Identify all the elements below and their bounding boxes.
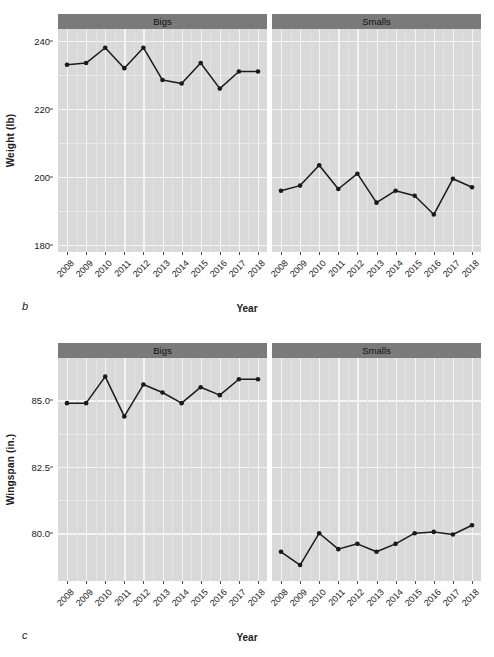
data-point xyxy=(256,377,261,382)
x-tick-mark xyxy=(182,252,183,255)
data-point xyxy=(160,390,165,395)
data-point xyxy=(122,414,127,419)
facet-panel-bigs: Bigs xyxy=(58,343,267,581)
data-point xyxy=(141,45,146,50)
series-line xyxy=(67,48,258,89)
data-point xyxy=(65,401,70,406)
data-point xyxy=(218,393,223,398)
data-point xyxy=(256,69,261,74)
x-tick-mark xyxy=(281,581,282,584)
data-point xyxy=(237,377,242,382)
x-tick-mark xyxy=(258,252,259,255)
x-tick-mark xyxy=(472,581,473,584)
x-tick-mark xyxy=(396,581,397,584)
x-tick-mark xyxy=(143,252,144,255)
series-line xyxy=(281,165,472,214)
facet-strip-text: Bigs xyxy=(153,345,171,356)
y-tick-label: 80.0 xyxy=(10,528,50,539)
data-point xyxy=(336,187,341,192)
y-axis-ticks: 85.082.580.0 xyxy=(0,329,50,657)
facet-strip-text: Smalls xyxy=(362,16,391,27)
data-point xyxy=(65,62,70,67)
x-tick-mark xyxy=(182,581,183,584)
data-point xyxy=(298,183,303,188)
data-point xyxy=(451,532,456,537)
x-tick-mark xyxy=(163,581,164,584)
y-tick-label: 220 xyxy=(10,104,50,115)
data-point xyxy=(103,45,108,50)
y-tick-mark xyxy=(50,245,53,246)
facet-strip-label: Smalls xyxy=(272,14,481,29)
x-tick-mark xyxy=(163,252,164,255)
chart-plot-area: Wingspan (in.)85.082.580.0Bigs2008200920… xyxy=(0,329,494,657)
figure-panel-c: Wingspan (in.)85.082.580.0Bigs2008200920… xyxy=(0,329,494,657)
data-point xyxy=(470,185,475,190)
x-tick-mark xyxy=(67,581,68,584)
facet-strip-label: Bigs xyxy=(58,343,267,358)
facet-plot-region xyxy=(58,358,267,581)
y-tick-mark xyxy=(50,40,53,41)
x-axis-title: Year xyxy=(0,632,494,643)
series-bigs xyxy=(58,29,267,252)
panel-letter: b xyxy=(22,300,28,312)
x-tick-mark xyxy=(319,252,320,255)
x-tick-mark xyxy=(67,252,68,255)
series-smalls xyxy=(272,358,481,581)
data-point xyxy=(393,542,398,547)
y-tick-mark xyxy=(50,466,53,467)
facet-panel-smalls: Smalls xyxy=(272,343,481,581)
data-point xyxy=(218,86,223,91)
x-tick-mark xyxy=(434,581,435,584)
data-point xyxy=(298,563,303,568)
data-point xyxy=(393,188,398,193)
x-tick-mark xyxy=(338,581,339,584)
data-point xyxy=(84,61,89,66)
data-point xyxy=(374,200,379,205)
y-tick-label: 200 xyxy=(10,172,50,183)
x-tick-mark xyxy=(377,581,378,584)
x-tick-mark xyxy=(453,252,454,255)
data-point xyxy=(179,81,184,86)
data-point xyxy=(84,401,89,406)
x-tick-mark xyxy=(201,581,202,584)
data-point xyxy=(198,61,203,66)
x-tick-mark xyxy=(124,252,125,255)
data-point xyxy=(279,550,284,555)
x-tick-mark xyxy=(319,581,320,584)
data-point xyxy=(412,194,417,199)
data-point xyxy=(279,188,284,193)
facet-plot-region xyxy=(58,29,267,252)
x-tick-mark xyxy=(220,581,221,584)
x-tick-mark xyxy=(281,252,282,255)
x-tick-mark xyxy=(300,581,301,584)
x-axis-title: Year xyxy=(0,303,494,314)
y-tick-label: 240 xyxy=(10,35,50,46)
series-bigs xyxy=(58,358,267,581)
figure-panel-b: Weight (lb)240220200180Bigs2008200920102… xyxy=(0,0,494,328)
x-tick-mark xyxy=(357,581,358,584)
data-point xyxy=(470,523,475,528)
x-tick-mark xyxy=(143,581,144,584)
x-tick-mark xyxy=(124,581,125,584)
y-tick-mark xyxy=(50,400,53,401)
facet-panel-smalls: Smalls xyxy=(272,14,481,252)
panel-letter: c xyxy=(22,629,28,641)
x-tick-mark xyxy=(396,252,397,255)
data-point xyxy=(374,550,379,555)
y-tick-label: 180 xyxy=(10,240,50,251)
x-tick-mark xyxy=(357,252,358,255)
y-axis-ticks: 240220200180 xyxy=(0,0,50,328)
data-point xyxy=(103,374,108,379)
data-point xyxy=(355,171,360,176)
x-tick-mark xyxy=(220,252,221,255)
x-tick-mark xyxy=(415,581,416,584)
x-tick-mark xyxy=(86,252,87,255)
facet-strip-text: Bigs xyxy=(153,16,171,27)
data-point xyxy=(198,385,203,390)
facet-strip-text: Smalls xyxy=(362,345,391,356)
data-point xyxy=(355,542,360,547)
x-tick-mark xyxy=(86,581,87,584)
data-point xyxy=(179,401,184,406)
facet-strip-label: Smalls xyxy=(272,343,481,358)
data-point xyxy=(237,69,242,74)
